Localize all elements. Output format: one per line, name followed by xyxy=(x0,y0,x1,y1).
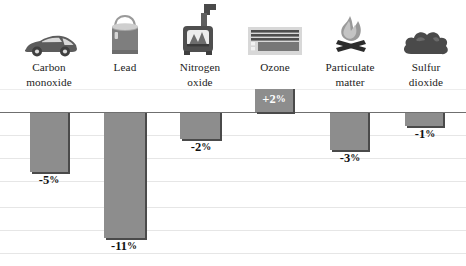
percent-sign: % xyxy=(350,152,360,163)
category-header-particulate-matter: Particulate matter xyxy=(311,0,389,88)
value-number: -3 xyxy=(340,151,350,165)
category-header-sulfur-dioxide: Sulfur dioxide xyxy=(387,0,465,88)
value-number: -11 xyxy=(111,239,127,253)
coal-pile-icon xyxy=(387,0,465,58)
category-header-nitrogen-oxide: Nitrogen oxide xyxy=(161,0,239,88)
pollutant-change-chart: Carbon monoxide Lead xyxy=(0,0,466,266)
category-label-line2: matter xyxy=(311,76,389,88)
value-label-particulate-matter: -3% xyxy=(321,151,379,166)
category-label-line1: Lead xyxy=(86,61,164,73)
category-label-line1: Nitrogen xyxy=(161,61,239,73)
bar-lead[interactable] xyxy=(104,113,145,238)
car-icon xyxy=(10,0,88,58)
category-label-line2: oxide xyxy=(161,76,239,88)
value-number: -1 xyxy=(415,127,425,141)
category-header-carbon-monoxide: Carbon monoxide xyxy=(10,0,88,88)
value-label-carbon-monoxide: -5% xyxy=(20,173,78,188)
gridline-minus10 xyxy=(0,230,466,231)
zero-axis-line xyxy=(0,112,466,113)
category-label-line2: dioxide xyxy=(387,76,465,88)
smog-layers-icon xyxy=(236,0,314,58)
percent-sign: % xyxy=(127,240,137,251)
category-label-line2: monoxide xyxy=(10,76,88,88)
furnace-smokestack-icon xyxy=(161,0,239,58)
bar-nitrogen-oxide[interactable] xyxy=(180,113,220,139)
value-label-ozone: +2% xyxy=(255,92,293,107)
value-number: +2 xyxy=(262,92,275,106)
percent-sign: % xyxy=(201,141,211,152)
percent-sign: % xyxy=(49,174,59,185)
bar-particulate-matter[interactable] xyxy=(330,113,368,150)
category-label-line1: Ozone xyxy=(236,61,314,73)
value-label-lead: -11% xyxy=(95,239,153,254)
value-label-sulfur-dioxide: -1% xyxy=(396,127,454,142)
category-header-lead: Lead xyxy=(86,0,164,76)
campfire-icon xyxy=(311,0,389,58)
value-label-nitrogen-oxide: -2% xyxy=(172,140,230,155)
value-number: -5 xyxy=(39,173,49,187)
paint-can-icon xyxy=(86,0,164,58)
bar-carbon-monoxide[interactable] xyxy=(30,113,68,172)
category-label-line1: Sulfur xyxy=(387,61,465,73)
percent-sign: % xyxy=(425,128,435,139)
gridline-minus4 xyxy=(0,158,466,159)
bar-sulfur-dioxide[interactable] xyxy=(405,113,443,126)
category-header-ozone: Ozone xyxy=(236,0,314,76)
value-number: -2 xyxy=(191,140,201,154)
category-label-line1: Particulate xyxy=(311,61,389,73)
gridline-minus12 xyxy=(0,253,466,254)
category-label-line1: Carbon xyxy=(10,61,88,73)
gridline-minus8 xyxy=(0,207,466,208)
percent-sign: % xyxy=(276,93,286,104)
gridline-plus2 xyxy=(0,89,466,90)
